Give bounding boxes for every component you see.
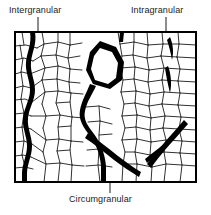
microstructure-diagram (0, 0, 211, 215)
figure-container: Intergranular Intragranular Circumgranul… (0, 0, 211, 215)
grain-field-background (15, 32, 196, 182)
